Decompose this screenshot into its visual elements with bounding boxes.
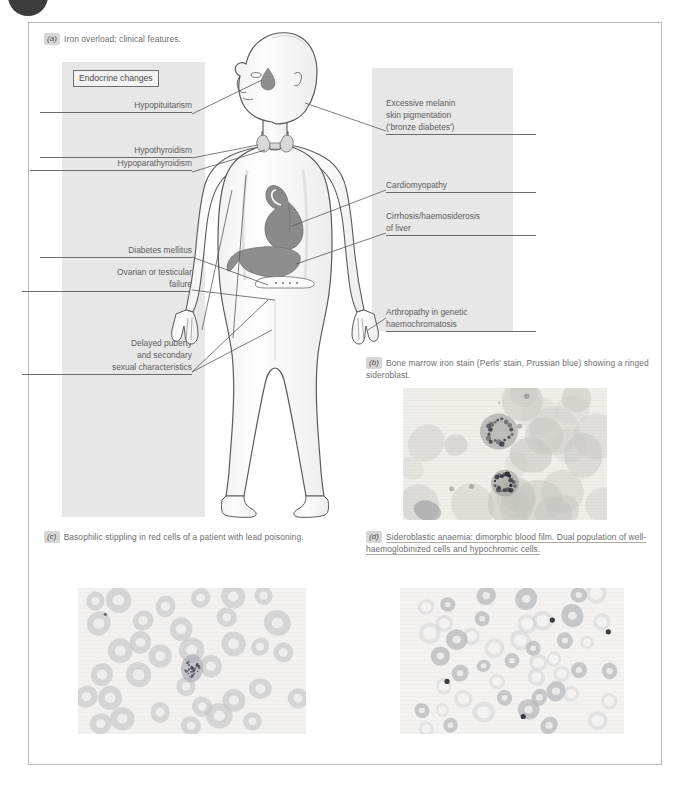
label-hypoparathyroidism: Hypoparathyroidism [30, 158, 192, 171]
label-hypopituitarism-line-1: Hypopituitarism [40, 100, 192, 113]
label-cardiomyopathy-line-1: Cardiomyopathy [386, 180, 536, 193]
label-arthropathy-line-1: Arthropathy in genetic [386, 307, 536, 319]
panel-c-tag: (c) [44, 531, 60, 543]
panel-c-micrograph [78, 588, 306, 734]
endocrine-changes-box: Endocrine changes [73, 70, 159, 87]
label-ovarian-or-testicular-failure: Ovarian or testicular failure [22, 267, 192, 292]
label-delayed-puberty-line-3: sexual characteristics [22, 362, 192, 375]
label-arthropathy: Arthropathy in genetic haemochromatosis [386, 307, 536, 332]
figure-page: (a)Iron overload: clinical features. End… [0, 0, 689, 799]
label-cirrhosis-haemosiderosis: Cirrhosis/haemosiderosis of liver [386, 211, 536, 236]
panel-a-caption: (a)Iron overload: clinical features. [44, 33, 464, 46]
bone-marrow-iron-stain-image [403, 388, 607, 520]
label-delayed-puberty-line-1: Delayed puberty [22, 338, 192, 350]
label-hypothyroidism: Hypothyroidism [40, 145, 192, 158]
panel-c-caption: (c)Basophilic stippling in red cells of … [44, 531, 364, 544]
label-cirrhosis-line-2: of liver [386, 223, 536, 236]
panel-b-caption: (b)Bone marrow iron stain (Perls' stain,… [366, 357, 656, 381]
panel-d-caption: (d)Sideroblastic anaemia: dimorphic bloo… [366, 531, 666, 555]
panel-d-caption-text: Sideroblastic anaemia: dimorphic blood f… [366, 532, 646, 554]
panel-c-caption-text: Basophilic stippling in red cells of a p… [64, 532, 304, 542]
label-diabetes-mellitus-line-1: Diabetes mellitus [40, 245, 192, 258]
label-excessive-melanin: Excessive melanin skin pigmentation ('br… [386, 98, 536, 135]
label-excessive-melanin-line-3: ('bronze diabetes') [386, 122, 536, 135]
label-cardiomyopathy: Cardiomyopathy [386, 180, 536, 193]
label-diabetes-mellitus: Diabetes mellitus [40, 245, 192, 258]
sideroblastic-anaemia-image [400, 588, 624, 734]
panel-a-tag: (a) [44, 33, 60, 45]
basophilic-stippling-image [78, 588, 306, 734]
label-ovarian-failure-line-2: failure [22, 279, 192, 292]
label-hypoparathyroidism-line-1: Hypoparathyroidism [30, 158, 192, 171]
chapter-circle-marker [8, 0, 48, 16]
panel-b-caption-text: Bone marrow iron stain (Perls' stain, Pr… [366, 358, 649, 380]
label-hypothyroidism-line-1: Hypothyroidism [40, 145, 192, 158]
label-delayed-puberty: Delayed puberty and secondary sexual cha… [22, 338, 192, 375]
panel-d-micrograph [400, 588, 624, 734]
label-hypopituitarism: Hypopituitarism [40, 100, 192, 113]
label-delayed-puberty-line-2: and secondary [22, 350, 192, 362]
panel-d-tag: (d) [366, 531, 382, 543]
endocrine-changes-label: Endocrine changes [79, 73, 153, 83]
label-ovarian-failure-line-1: Ovarian or testicular [22, 267, 192, 279]
label-cirrhosis-line-1: Cirrhosis/haemosiderosis [386, 211, 536, 223]
panel-b-tag: (b) [366, 357, 382, 369]
label-excessive-melanin-line-1: Excessive melanin [386, 98, 536, 110]
panel-b-micrograph [403, 388, 607, 520]
label-excessive-melanin-line-2: skin pigmentation [386, 110, 536, 122]
label-arthropathy-line-2: haemochromatosis [386, 319, 536, 332]
panel-a-caption-text: Iron overload: clinical features. [64, 34, 181, 44]
